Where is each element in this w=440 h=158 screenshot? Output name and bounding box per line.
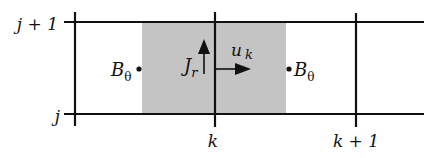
grid-diagram: j + 1 j k k + 1 Bθ Bθ Jr uk	[0, 0, 440, 158]
col-label-k: k	[208, 131, 218, 151]
b-theta-left-dot	[136, 66, 141, 71]
row-label-j: j	[51, 106, 61, 126]
row-label-j-plus-1: j + 1	[13, 14, 58, 34]
col-label-k-plus-1: k + 1	[333, 131, 379, 151]
b-theta-left-label: Bθ	[110, 59, 131, 84]
b-theta-right-label: Bθ	[293, 59, 314, 84]
b-theta-right-dot	[286, 66, 291, 71]
